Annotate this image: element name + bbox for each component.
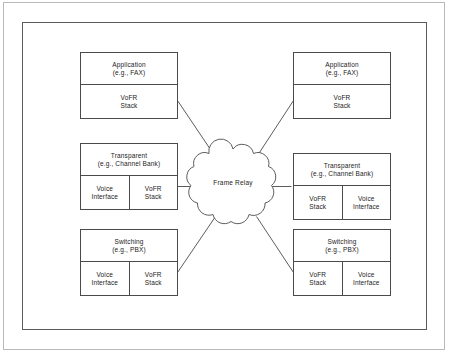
cell-line1: Voice — [358, 195, 375, 203]
cell-line2: Interface — [91, 279, 118, 287]
cell-line2: Stack — [309, 279, 326, 287]
node-left-transparent[interactable]: Transparent (e.g., Channel Bank) Voice I… — [80, 143, 178, 210]
cell-line1: Voice — [358, 271, 375, 279]
cell-line1: VoFR — [334, 94, 351, 102]
cell-voice-interface: Voice Interface — [342, 186, 391, 220]
node-title: Transparent (e.g., Channel Bank) — [81, 144, 177, 176]
node-title-line1: Transparent — [111, 152, 147, 160]
node-body: Voice Interface VoFR Stack — [81, 262, 177, 296]
node-title-line1: Transparent — [324, 162, 360, 170]
cell-vofr-stack: VoFR Stack — [129, 262, 178, 296]
cell-voice-interface: Voice Interface — [342, 262, 391, 296]
node-title-line2: (e.g., FAX) — [326, 69, 359, 77]
cell-line2: Stack — [309, 203, 326, 211]
node-title-line1: Application — [325, 61, 358, 69]
cell-voice-interface: Voice Interface — [81, 262, 129, 296]
cell-line1: VoFR — [309, 195, 326, 203]
figure-root: Frame Relay Application (e.g., FAX) VoFR… — [0, 0, 449, 354]
connector-left-switching — [178, 217, 216, 273]
node-title-line1: Application — [112, 61, 145, 69]
node-body: VoFR Stack — [294, 85, 390, 119]
node-title: Switching (e.g., PBX) — [294, 230, 390, 262]
node-title-line1: Switching — [327, 238, 356, 246]
cell-vofr-stack: VoFR Stack — [129, 176, 178, 210]
cell-vofr-stack: VoFR Stack — [294, 186, 342, 220]
node-title-line2: (e.g., Channel Bank) — [311, 170, 374, 178]
cell-line1: VoFR — [121, 94, 138, 102]
node-title-line1: Switching — [114, 238, 143, 246]
node-title: Application (e.g., FAX) — [81, 53, 177, 85]
cell-line1: VoFR — [309, 271, 326, 279]
cell-line2: Stack — [120, 102, 137, 110]
cell-line2: Interface — [353, 203, 380, 211]
cell-line2: Stack — [145, 279, 162, 287]
node-title: Transparent (e.g., Channel Bank) — [294, 154, 390, 186]
node-body: VoFR Stack Voice Interface — [294, 262, 390, 296]
cell-voice-interface: Voice Interface — [81, 176, 129, 210]
connector-right-switching — [257, 217, 294, 273]
node-body: Voice Interface VoFR Stack — [81, 176, 177, 210]
node-left-switching[interactable]: Switching (e.g., PBX) Voice Interface Vo… — [80, 229, 178, 296]
network-cloud-label: Frame Relay — [196, 179, 270, 186]
cell-line2: Interface — [91, 193, 118, 201]
node-title-line2: (e.g., Channel Bank) — [98, 160, 161, 168]
node-right-switching[interactable]: Switching (e.g., PBX) VoFR Stack Voice I… — [293, 229, 391, 296]
node-right-application[interactable]: Application (e.g., FAX) VoFR Stack — [293, 52, 391, 119]
cell-line1: Voice — [96, 271, 113, 279]
node-title-line2: (e.g., FAX) — [113, 69, 146, 77]
node-title-line2: (e.g., PBX) — [325, 246, 358, 254]
node-right-transparent[interactable]: Transparent (e.g., Channel Bank) VoFR St… — [293, 153, 391, 220]
cell-line1: Voice — [96, 185, 113, 193]
cell-line2: Stack — [145, 193, 162, 201]
connector-left-application — [178, 101, 215, 156]
node-title: Application (e.g., FAX) — [294, 53, 390, 85]
node-body: VoFR Stack Voice Interface — [294, 186, 390, 220]
cell-vofr-stack: VoFR Stack — [294, 262, 342, 296]
cell-vofr-stack: VoFR Stack — [81, 85, 177, 119]
cell-line2: Stack — [333, 102, 350, 110]
node-title: Switching (e.g., PBX) — [81, 230, 177, 262]
cell-line1: VoFR — [145, 185, 162, 193]
node-left-application[interactable]: Application (e.g., FAX) VoFR Stack — [80, 52, 178, 119]
node-title-line2: (e.g., PBX) — [112, 246, 145, 254]
cell-vofr-stack: VoFR Stack — [294, 85, 390, 119]
connector-right-application — [258, 101, 294, 156]
cell-line2: Interface — [353, 279, 380, 287]
node-body: VoFR Stack — [81, 85, 177, 119]
cell-line1: VoFR — [145, 271, 162, 279]
